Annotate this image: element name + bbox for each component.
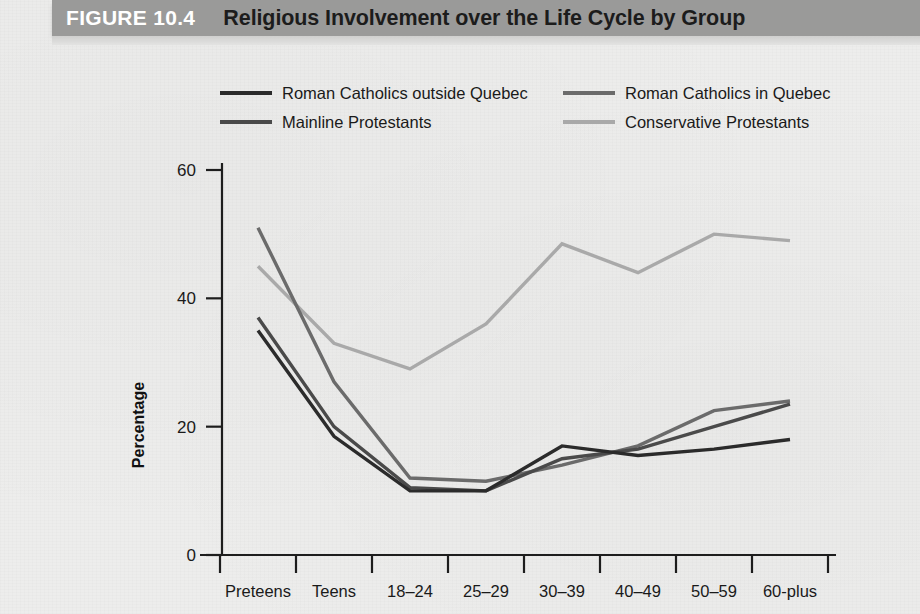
- series-line-roman-catholics-in-quebec: [258, 228, 790, 481]
- y-axis-title: Percentage: [130, 382, 147, 468]
- figure-title: Religious Involvement over the Life Cycl…: [223, 6, 745, 31]
- legend-label-mainline-protestants: Mainline Protestants: [282, 113, 432, 131]
- x-axis-label-25-29: 25–29: [463, 582, 509, 600]
- chart-legend: Roman Catholics outside Quebec Roman Cat…: [220, 84, 830, 131]
- figure-header-band: FIGURE 10.4 Religious Involvement over t…: [52, 0, 920, 36]
- series-line-conservative-protestants: [258, 234, 790, 369]
- x-axis-labels: PreteensTeens18–2425–2930–3940–4950–5960…: [225, 582, 817, 600]
- y-axis-ticks: 0204060: [177, 161, 222, 565]
- y-tick-label-40: 40: [177, 289, 196, 308]
- figure-number: FIGURE 10.4: [66, 6, 195, 30]
- chart-area: Roman Catholics outside Quebec Roman Cat…: [0, 45, 920, 614]
- x-axis-ticks: [220, 555, 828, 573]
- line-chart: Roman Catholics outside Quebec Roman Cat…: [0, 45, 920, 614]
- x-axis-label-preteens: Preteens: [225, 582, 291, 600]
- x-axis-label-30-39: 30–39: [539, 582, 585, 600]
- y-tick-label-20: 20: [177, 418, 196, 437]
- legend-label-roman-catholics-outside-quebec: Roman Catholics outside Quebec: [282, 84, 528, 102]
- x-axis-label-teens: Teens: [312, 582, 356, 600]
- y-tick-label-60: 60: [177, 161, 196, 180]
- x-axis-label-50-59: 50–59: [691, 582, 737, 600]
- x-axis-label-60-plus: 60-plus: [763, 582, 817, 600]
- legend-label-roman-catholics-in-quebec: Roman Catholics in Quebec: [625, 84, 830, 102]
- legend-label-conservative-protestants: Conservative Protestants: [625, 113, 809, 131]
- series-lines: [258, 228, 790, 491]
- x-axis-label-18-24: 18–24: [387, 582, 433, 600]
- y-tick-label-0: 0: [187, 546, 196, 565]
- header-shadow-band: [52, 36, 920, 45]
- x-axis-label-40-49: 40–49: [615, 582, 661, 600]
